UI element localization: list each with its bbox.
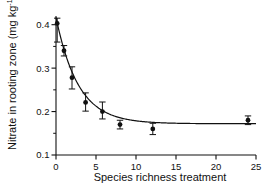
nitrate-vs-richness-scatter-plot: 0.10.20.30.4 0510152025 Species richness…	[0, 0, 268, 193]
y-axis-title-main: Nitrate in rooting zone (mg kg	[6, 6, 18, 150]
x-tick-label: 0	[53, 161, 58, 172]
y-tick-label: 0.4	[36, 19, 49, 30]
data-point	[83, 100, 88, 105]
data-point	[246, 118, 251, 123]
data-point	[55, 21, 60, 26]
x-tick-label: 25	[251, 161, 262, 172]
y-axis-title: Nitrate in rooting zone (mg kg-1)	[6, 0, 18, 150]
y-tick-label: 0.1	[36, 149, 49, 160]
x-axis-title: Species richness treatment	[94, 171, 227, 183]
y-tick-label: 0.2	[36, 106, 49, 117]
data-point	[100, 109, 105, 114]
chart-figure: 0.10.20.30.4 0510152025 Species richness…	[0, 0, 268, 193]
data-point	[150, 127, 155, 132]
data-point	[70, 75, 75, 80]
y-tick-label: 0.3	[36, 63, 49, 74]
y-axis-title-superscript: -1	[6, 0, 13, 6]
data-point	[118, 122, 123, 127]
data-point	[62, 48, 67, 53]
